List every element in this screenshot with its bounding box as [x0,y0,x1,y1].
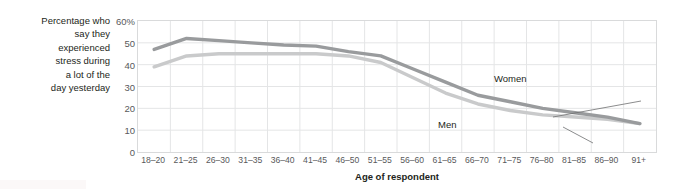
x-tick-label: 66–70 [465,155,489,165]
x-tick-label: 81–85 [562,155,586,165]
x-tick-label: 26–30 [206,155,230,165]
y-tick-label: 50 [105,37,135,48]
x-tick-label: 41–45 [303,155,327,165]
y-tick-label: 20 [105,103,135,114]
annotation-leader-men [563,127,593,143]
y-tick-label: 0 [105,147,135,158]
stress-by-age-line-chart: Percentage who say they experienced stre… [0,0,674,189]
x-tick-label: 46–50 [335,155,359,165]
x-tick-label: 31–35 [238,155,262,165]
series-label-women: Women [494,73,527,84]
x-tick-label: 21–25 [174,155,198,165]
y-tick-label: 60% [105,16,135,27]
y-axis-tick-labels: 60%50403020100 [104,0,135,189]
x-tick-label: 61–65 [433,155,457,165]
x-tick-label: 51–55 [368,155,392,165]
y-tick-label: 10 [105,125,135,136]
y-tick-label: 30 [105,81,135,92]
x-axis-tick-labels: 18–2021–2526–3031–3536–4041–4546–5051–55… [137,155,657,169]
x-tick-label: 18–20 [141,155,165,165]
y-axis-caption: Percentage who say they experienced stre… [6,14,110,94]
x-tick-label: 36–40 [271,155,295,165]
x-tick-label: 91+ [632,155,647,165]
footer-strip [0,180,86,189]
x-tick-label: 86–90 [594,155,618,165]
x-tick-label: 76–80 [530,155,554,165]
plot-svg [138,21,656,152]
y-tick-label: 40 [105,59,135,70]
series-label-men: Men [438,119,456,130]
x-axis-title: Age of respondent [137,171,657,182]
plot-area [137,20,657,153]
x-tick-label: 71–75 [497,155,521,165]
x-tick-label: 56–60 [400,155,424,165]
